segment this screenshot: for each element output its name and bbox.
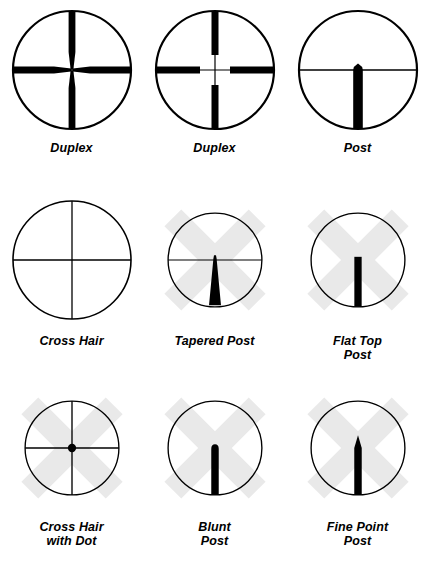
reticle-post-fine-point	[354, 435, 361, 495]
reticle-caption: Cross Hair	[39, 334, 103, 348]
reticle-post-vertical	[353, 64, 363, 130]
reticle-cell-duplex-tapered[interactable]: Duplex	[0, 0, 143, 188]
reticle-chart-sheet: Duplex Duplex	[0, 0, 429, 566]
reticle-caption: Cross Hair with Dot	[39, 520, 103, 548]
reticle-cell-duplex-blunt[interactable]: Duplex	[143, 0, 286, 188]
reticle-center-dot	[67, 444, 75, 452]
reticle-caption: Post	[344, 141, 372, 155]
reticle-post-right	[230, 67, 274, 74]
reticle-cell-cross-hair[interactable]: Cross Hair	[0, 188, 143, 378]
scope-view-cross-hair-with-dot	[10, 386, 134, 510]
scope-view-cross-hair	[10, 198, 134, 322]
reticle-cell-tapered-post[interactable]: Tapered Post	[143, 188, 286, 378]
reticle-post-left	[156, 67, 200, 74]
reticle-caption: Flat Top Post	[333, 334, 382, 362]
reticle-post-top	[211, 11, 218, 55]
reticle-caption: Duplex	[193, 141, 235, 155]
scope-view-duplex-blunt	[153, 8, 277, 132]
reticle-post-flat-top	[354, 257, 361, 307]
reticle-caption: Fine Point Post	[327, 520, 388, 548]
scope-view-fine-point-post	[296, 386, 420, 510]
reticle-cell-flat-top-post[interactable]: Flat Top Post	[286, 188, 429, 378]
reticle-post-bottom	[211, 85, 218, 129]
scope-view-post	[296, 8, 420, 132]
scope-view-blunt-post	[153, 386, 277, 510]
reticle-caption: Blunt Post	[198, 520, 230, 548]
scope-view-tapered-post	[153, 198, 277, 322]
reticle-cell-blunt-post[interactable]: Blunt Post	[143, 378, 286, 566]
scope-view-flat-top-post	[296, 198, 420, 322]
reticle-cell-post[interactable]: Post	[286, 0, 429, 188]
reticle-caption: Duplex	[50, 141, 92, 155]
reticle-grid: Duplex Duplex	[0, 0, 429, 566]
reticle-cell-cross-hair-with-dot[interactable]: Cross Hair with Dot	[0, 378, 143, 566]
scope-view-duplex-tapered	[10, 8, 134, 132]
reticle-caption: Tapered Post	[175, 334, 255, 348]
reticle-cell-fine-point-post[interactable]: Fine Point Post	[286, 378, 429, 566]
reticle-post-blunt	[211, 444, 218, 495]
